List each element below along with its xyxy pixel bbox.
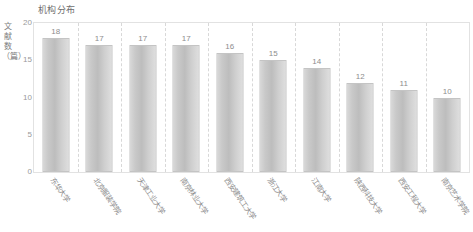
bar[interactable] [173,45,200,172]
bar-value-label: 14 [312,57,321,66]
x-label-slot: 陕西科技大学 [339,174,383,232]
bar-slot: 17 [121,23,165,172]
y-tick-label: 5 [16,129,32,138]
x-label-slot: 南京艺术学院 [426,174,470,232]
x-tick-label: 陕西科技大学 [353,176,384,216]
x-tick-label: 西安工程大学 [396,176,427,216]
x-label-slot: 江南大学 [295,174,339,232]
y-tick-label: 20 [16,18,32,27]
bar-value-label: 10 [443,87,452,96]
bar-value-label: 17 [138,34,147,43]
bar-value-label: 11 [400,79,408,88]
x-tick-label: 江南大学 [309,176,332,204]
x-label-slot: 北京服装学院 [78,174,122,232]
x-tick-label: 北京服装学院 [92,176,123,216]
x-tick-label: 天津工业大学 [135,176,166,216]
x-label-slot: 西安工程大学 [382,174,426,232]
x-label-slot: 南京林业大学 [165,174,209,232]
bar-slot: 16 [208,23,252,172]
x-tick-label: 南京林业大学 [179,176,210,216]
bar-slot: 18 [34,23,78,172]
bar-slot: 17 [165,23,209,172]
bar-value-label: 18 [51,27,60,36]
y-axis-tick-labels: 20151050 [14,22,32,173]
y-tick-label: 15 [16,55,32,64]
bar[interactable] [216,53,243,172]
bar[interactable] [42,38,69,172]
bar-value-label: 17 [182,34,191,43]
x-label-slot: 西安建筑工大学 [208,174,252,232]
chart-title: 机构分布 [38,3,75,16]
x-tick-label: 南京艺术学院 [440,176,471,216]
bar[interactable] [260,60,287,172]
bar[interactable] [390,90,417,172]
bar[interactable] [434,98,461,173]
bar-slot: 15 [252,23,296,172]
bar-value-label: 15 [269,49,278,58]
bar-slot: 11 [382,23,426,172]
bar-slot: 17 [78,23,122,172]
bar-value-label: 17 [95,34,104,43]
bar-slot: 12 [339,23,383,172]
y-axis-title: 文献数（篇） [2,22,14,62]
bar-slot: 14 [295,23,339,172]
x-tick-label: 东华大学 [48,176,71,204]
y-tick-label: 10 [16,92,32,101]
bar[interactable] [347,83,374,172]
x-label-slot: 东华大学 [34,174,78,232]
bar[interactable] [129,45,156,172]
bar[interactable] [86,45,113,172]
x-tick-label: 浙江大学 [266,176,289,204]
x-label-slot: 天津工业大学 [121,174,165,232]
bar-slot: 10 [426,23,470,172]
bar-value-label: 12 [356,72,365,81]
x-label-slot: 浙江大学 [252,174,296,232]
x-axis-tick-labels: 东华大学北京服装学院天津工业大学南京林业大学西安建筑工大学浙江大学江南大学陕西科… [34,174,469,232]
y-tick-label: 0 [16,167,32,176]
institution-distribution-bar-chart: 机构分布 文献数（篇） 20151050 1817171716151412111… [0,0,473,232]
bar-value-label: 16 [225,42,234,51]
plot-area: 18171717161514121110 [34,23,469,172]
bar[interactable] [303,68,330,172]
